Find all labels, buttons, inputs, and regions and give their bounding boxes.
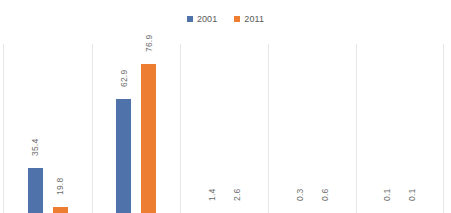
- gridline-5: [443, 44, 444, 213]
- bar-2001-1[interactable]: [28, 168, 43, 213]
- bar-label-2011-2: 76.9: [144, 34, 153, 51]
- bar-slot: 76.9: [141, 44, 156, 213]
- bar-label-2001-2: 62.9: [119, 70, 128, 87]
- bar-group: 35.419.8: [3, 44, 92, 213]
- chart-legend: 2001 2011: [0, 13, 451, 25]
- bar-label-2001-1: 35.4: [31, 138, 40, 155]
- bar-group: 62.976.9: [92, 44, 180, 213]
- bar-label-2011-5: 0.1: [408, 188, 417, 200]
- bar-slot: 0.1: [380, 44, 395, 213]
- bar-2011-1[interactable]: [53, 207, 68, 213]
- bar-group: 1.42.6: [180, 44, 268, 213]
- legend-item-2001[interactable]: 2001: [187, 15, 217, 24]
- legend-swatch-2011: [234, 16, 240, 22]
- bar-label-2011-1: 19.8: [56, 178, 65, 195]
- bar-label-2011-4: 0.6: [320, 188, 329, 200]
- bar-slot: 1.4: [204, 44, 219, 213]
- bar-slot: 0.6: [317, 44, 332, 213]
- bar-2011-2[interactable]: [141, 64, 156, 213]
- bar-2001-2[interactable]: [116, 99, 131, 213]
- bar-chart: 2001 2011 35.419.862.976.91.42.60.30.60.…: [0, 0, 451, 213]
- bar-label-2011-3: 2.6: [232, 188, 241, 200]
- bar-label-2001-3: 1.4: [207, 188, 216, 200]
- chart-title-cropped: [0, 0, 451, 8]
- legend-label-2001: 2001: [197, 15, 217, 24]
- bar-slot: 0.1: [405, 44, 420, 213]
- bar-slot: 2.6: [229, 44, 244, 213]
- plot-area: 35.419.862.976.91.42.60.30.60.10.1: [0, 44, 451, 213]
- bar-slot: 0.3: [292, 44, 307, 213]
- legend-label-2011: 2011: [244, 15, 264, 24]
- bar-slot: 62.9: [116, 44, 131, 213]
- bar-label-2001-4: 0.3: [295, 188, 304, 200]
- legend-item-2011[interactable]: 2011: [234, 15, 264, 24]
- bar-label-2001-5: 0.1: [383, 188, 392, 200]
- bar-slot: 35.4: [28, 44, 43, 213]
- bar-group: 0.30.6: [268, 44, 356, 213]
- bar-slot: 19.8: [53, 44, 68, 213]
- bar-group: 0.10.1: [356, 44, 443, 213]
- legend-swatch-2001: [187, 16, 193, 22]
